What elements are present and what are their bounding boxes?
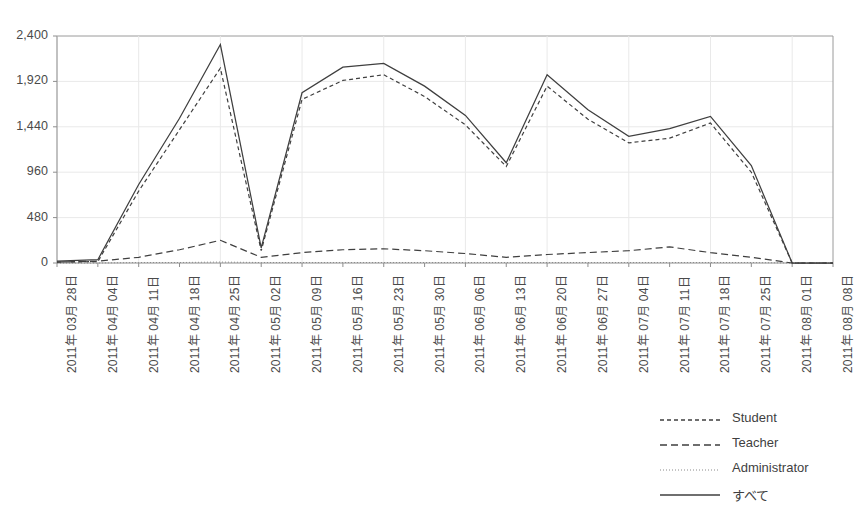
x-axis-tick-label: 2011年 05月 23日 [389, 275, 406, 373]
x-axis-tick-label: 2011年 07月 04日 [634, 275, 651, 373]
legend-item-administrator[interactable]: Administrator [660, 458, 850, 483]
legend-item-student[interactable]: Student [660, 408, 850, 433]
y-axis-tick-label: 960 [0, 164, 48, 178]
x-axis-tick-label: 2011年 05月 09日 [307, 275, 324, 373]
x-axis-tick-label: 2011年 05月 16日 [348, 275, 365, 373]
x-axis-tick-label: 2011年 04月 25日 [225, 275, 242, 373]
x-axis-tick-label: 2011年 06月 06日 [470, 275, 487, 373]
legend-swatch-fine-dash [660, 419, 720, 421]
x-axis-tick-label: 2011年 06月 13日 [511, 275, 528, 373]
x-axis-tick-label: 2011年 04月 11日 [144, 276, 161, 373]
x-axis-tick-label: 2011年 05月 30日 [430, 275, 447, 373]
legend-label: Teacher [732, 435, 778, 450]
x-axis-tick-label: 2011年 06月 20日 [552, 275, 569, 373]
legend-label: Administrator [732, 460, 809, 475]
series-line-teacher [57, 240, 833, 263]
x-axis-tick-label: 2011年 03月 28日 [62, 275, 79, 373]
x-axis-tick-label: 2011年 06月 27日 [593, 275, 610, 373]
series-line-すべて [57, 45, 833, 263]
legend-label: すべて [732, 485, 769, 504]
y-axis-tick-label: 2,400 [0, 28, 48, 42]
y-axis-tick-label: 1,440 [0, 119, 48, 133]
y-axis-tick-label: 0 [0, 255, 48, 269]
legend-swatch-solid [660, 494, 720, 496]
y-axis-tick-label: 480 [0, 210, 48, 224]
x-axis-tick-label: 2011年 07月 11日 [675, 276, 692, 373]
legend-item-teacher[interactable]: Teacher [660, 433, 850, 458]
x-axis-tick-label: 2011年 07月 18日 [715, 275, 732, 373]
y-axis-tick-label: 1,920 [0, 73, 48, 87]
legend-label: Student [732, 410, 777, 425]
series-line-student [57, 68, 833, 263]
x-axis-tick-label: 2011年 07月 25日 [756, 275, 773, 373]
x-axis-tick-label: 2011年 08月 08日 [838, 275, 855, 373]
line-chart: 04809601,4401,9202,400 2011年 03月 28日2011… [0, 0, 857, 516]
x-axis-tick-label: 2011年 04月 04日 [103, 275, 120, 373]
legend-item-すべて[interactable]: すべて [660, 483, 850, 508]
x-axis-tick-label: 2011年 08月 01日 [797, 275, 814, 373]
legend-swatch-dash [660, 444, 720, 446]
legend-swatch-dot [660, 469, 720, 471]
x-axis-tick-label: 2011年 05月 02日 [266, 275, 283, 373]
x-axis-tick-label: 2011年 04月 18日 [185, 275, 202, 373]
chart-legend: StudentTeacherAdministratorすべて [660, 408, 850, 508]
